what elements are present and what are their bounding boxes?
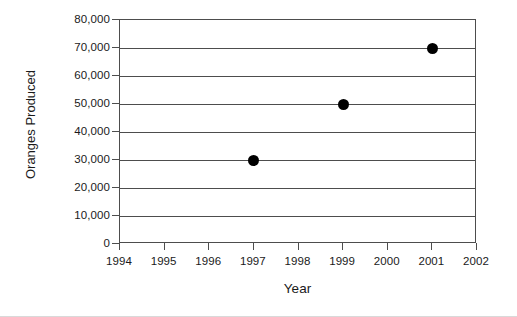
y-tick-label: 10,000 [74, 209, 110, 221]
y-tick-label: 70,000 [74, 41, 110, 53]
gridline [120, 48, 475, 49]
x-tick-mark [164, 243, 165, 250]
x-tick-label: 1996 [195, 255, 221, 267]
data-point [248, 155, 259, 166]
y-tick-mark [112, 131, 119, 132]
y-tick-label: 50,000 [74, 97, 110, 109]
y-tick-label: 0 [104, 237, 111, 249]
y-tick-mark [112, 19, 119, 20]
y-tick-mark [112, 47, 119, 48]
x-tick-mark [119, 243, 120, 250]
x-tick-label: 1994 [106, 255, 132, 267]
y-tick-label: 60,000 [74, 69, 110, 81]
x-tick-mark [476, 243, 477, 250]
y-tick-mark [112, 75, 119, 76]
x-tick-label: 2000 [374, 255, 400, 267]
gridline [120, 76, 475, 77]
gridline [120, 216, 475, 217]
gridline [120, 160, 475, 161]
x-tick-mark [298, 243, 299, 250]
x-tick-mark [342, 243, 343, 250]
y-tick-mark [112, 243, 119, 244]
chart-figure: Oranges Produced 80,00070,00060,00050,00… [0, 0, 517, 317]
y-tick-mark [112, 187, 119, 188]
x-tick-label: 1995 [151, 255, 177, 267]
gridline [120, 104, 475, 105]
data-point [338, 99, 349, 110]
x-tick-label: 2002 [463, 255, 489, 267]
x-tick-mark [208, 243, 209, 250]
x-tick-mark [431, 243, 432, 250]
y-tick-mark [112, 159, 119, 160]
y-axis-tick-labels: 80,00070,00060,00050,00040,00030,00020,0… [0, 0, 110, 317]
plot-area [119, 19, 476, 243]
y-tick-label: 30,000 [74, 153, 110, 165]
gridline [120, 188, 475, 189]
x-tick-label: 1998 [285, 255, 311, 267]
y-tick-label: 80,000 [74, 13, 110, 25]
x-tick-mark [253, 243, 254, 250]
y-tick-label: 40,000 [74, 125, 110, 137]
x-tick-label: 1997 [240, 255, 266, 267]
x-tick-label: 2001 [418, 255, 444, 267]
y-tick-label: 20,000 [74, 181, 110, 193]
x-axis-title: Year [119, 281, 476, 296]
x-tick-mark [387, 243, 388, 250]
gridline [120, 132, 475, 133]
y-tick-mark [112, 103, 119, 104]
data-point [427, 43, 438, 54]
y-tick-mark [112, 215, 119, 216]
x-tick-label: 1999 [329, 255, 355, 267]
